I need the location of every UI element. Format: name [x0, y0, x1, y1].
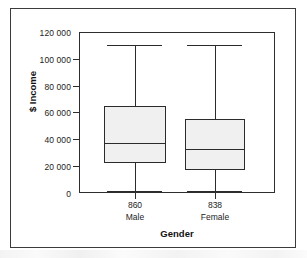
boxplot-figure: 120 000 100 000 80 000 60 000 40 000 20 … [0, 0, 307, 258]
y-tick-label-120000: 120 000 [11, 28, 71, 38]
y-tick-label-0: 0 [11, 189, 71, 199]
box-female [185, 119, 245, 170]
x-group-female-label: Female [160, 212, 270, 224]
y-tick-label-60000: 60 000 [11, 108, 71, 118]
y-tick-label-80000: 80 000 [11, 82, 71, 92]
x-axis-title: Gender [79, 228, 275, 239]
x-tick-male [135, 193, 136, 199]
box-male [104, 106, 166, 163]
x-group-female: 838 Female [160, 200, 270, 223]
x-tick-female [215, 193, 216, 199]
y-tick-label-40000: 40 000 [11, 135, 71, 145]
whisker-lower-male [135, 163, 136, 192]
y-tick-label-20000: 20 000 [11, 162, 71, 172]
whisker-cap-upper-male [107, 45, 162, 46]
scan-artifact-strip [0, 250, 307, 258]
y-axis-labels: 120 000 100 000 80 000 60 000 40 000 20 … [8, 0, 71, 258]
whisker-upper-female [215, 45, 216, 120]
median-line-male [104, 143, 166, 144]
y-tick-label-100000: 100 000 [11, 55, 71, 65]
median-line-female [185, 149, 245, 150]
whisker-cap-lower-female [187, 191, 242, 192]
whisker-upper-male [135, 45, 136, 106]
whisker-cap-upper-female [187, 45, 242, 46]
x-group-female-count: 838 [160, 200, 270, 212]
whisker-lower-female [215, 170, 216, 191]
y-axis-title: $ Income [27, 32, 38, 152]
